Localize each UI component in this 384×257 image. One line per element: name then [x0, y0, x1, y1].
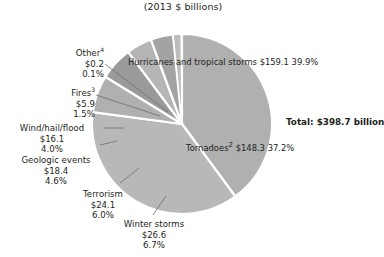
slice-label-other-line1: Other4 — [0, 48, 104, 59]
slice-label-wind-hail-flood: Wind/hail/flood $16.1 4.0% — [2, 123, 102, 155]
slice-label-terrorism-line1: Terrorism — [66, 189, 140, 200]
footnote-marker-fires: 3 — [91, 86, 95, 93]
slice-value-tornadoes: $148.3 — [236, 143, 265, 153]
slice-label-wind-hail-flood-line1: Wind/hail/flood — [2, 123, 102, 134]
slice-label-tornadoes-line1: Tornadoes2 — [186, 143, 233, 153]
slice-label-terrorism: Terrorism $24.1 6.0% — [66, 189, 140, 221]
slice-label-tornadoes: Tornadoes2 $148.3 37.2% — [186, 140, 268, 153]
slice-value-winter-storms: $26.6 — [111, 230, 197, 241]
slice-label-hurricanes-line1: Hurricanes and — [128, 57, 192, 67]
slice-value-geologic-events: $18.4 — [10, 166, 102, 177]
slice-label-hurricanes-line2: tropical storms — [194, 57, 257, 67]
slice-value-fires: $5.9 — [0, 99, 95, 110]
slice-label-other: Other4 $0.2 0.1% — [0, 48, 104, 80]
slice-label-winter-storms: Winter storms $26.6 6.7% — [111, 219, 197, 251]
slice-label-fires: Fires3 $5.9 1.5% — [0, 88, 95, 120]
pie-slice-other — [181, 34, 182, 124]
slice-value-other: $0.2 — [0, 59, 104, 70]
slice-label-winter-storms-line1: Winter storms — [111, 219, 197, 230]
slice-value-wind-hail-flood: $16.1 — [2, 134, 102, 145]
footnote-marker-other: 4 — [100, 46, 104, 53]
slice-percent-wind-hail-flood: 4.0% — [2, 144, 102, 155]
slice-label-geologic-events: Geologic events $18.4 4.6% — [10, 155, 102, 187]
total-callout: Total: $398.7 billion — [286, 117, 366, 128]
slice-percent-geologic-events: 4.6% — [10, 176, 102, 187]
slice-value-hurricanes: $159.1 — [260, 57, 289, 67]
slice-percent-winter-storms: 6.7% — [111, 240, 197, 251]
slice-label-hurricanes: Hurricanes and tropical storms $159.1 39… — [128, 57, 238, 67]
slice-value-terrorism: $24.1 — [66, 200, 140, 211]
slice-percent-hurricanes: 39.9% — [292, 57, 319, 67]
slice-percent-fires: 1.5% — [0, 109, 95, 120]
total-label: Total: — [286, 117, 314, 127]
slice-label-fires-line1: Fires3 — [0, 88, 95, 99]
slice-percent-other: 0.1% — [0, 69, 104, 80]
slice-label-geologic-events-line1: Geologic events — [10, 155, 102, 166]
slice-percent-tornadoes: 37.2% — [268, 143, 295, 153]
total-value: $398.7 billion — [317, 117, 384, 127]
footnote-marker-tornadoes: 2 — [229, 141, 233, 149]
